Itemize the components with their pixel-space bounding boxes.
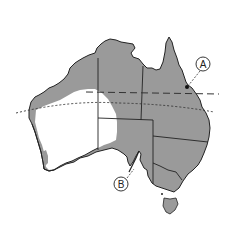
callout-a-label: A <box>200 59 207 70</box>
callout-a-leader <box>188 71 200 86</box>
callout-b-leader <box>127 169 134 178</box>
callout-b: B <box>114 169 134 191</box>
king-island <box>161 193 163 195</box>
callout-b-label: B <box>118 179 125 190</box>
tasmania <box>163 198 178 214</box>
callout-a-marker <box>185 85 189 89</box>
callout-a: A <box>185 57 210 89</box>
australia-map: A B <box>0 0 233 235</box>
